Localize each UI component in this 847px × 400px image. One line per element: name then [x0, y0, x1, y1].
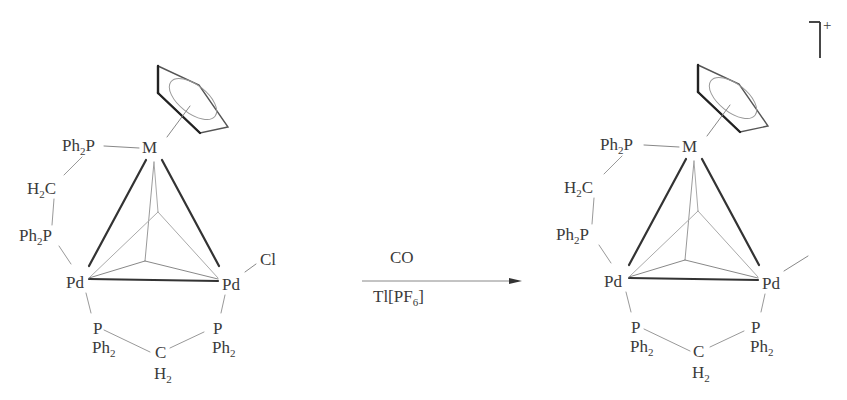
- ph2-bottom-right-label: Ph2: [750, 338, 773, 355]
- h2c-label: H2C: [27, 180, 56, 197]
- charge-bracket: [809, 22, 820, 58]
- charge-label: +: [823, 18, 831, 33]
- p-bottom-right-label: P: [751, 319, 760, 336]
- metal-label: M: [682, 138, 697, 155]
- p-bottom-left-label: P: [93, 320, 102, 337]
- ph2-bottom-left-label: Ph2: [92, 339, 115, 356]
- arrowhead-icon: [509, 278, 522, 284]
- ph2p-top-label: Ph2P: [600, 136, 633, 153]
- pd-right-label: Pd: [222, 276, 240, 293]
- reagent-tlpf6-label: Tl[PF6]: [373, 288, 424, 305]
- pd-left-label: Pd: [66, 274, 84, 291]
- benzene-ring-icon: [698, 65, 768, 132]
- reaction-arrow: [362, 278, 522, 284]
- benzene-ring-icon: [158, 66, 228, 133]
- c-bottom-label: C: [693, 343, 704, 360]
- chloride-label: Cl: [260, 251, 276, 268]
- h2-bottom-label: H2: [154, 365, 172, 382]
- ph2-bottom-left-label: Ph2: [630, 338, 653, 355]
- reagent-co-label: CO: [390, 249, 414, 266]
- ph2-bottom-right-label: Ph2: [212, 339, 235, 356]
- pd-right-label: Pd: [762, 275, 780, 292]
- ph2p-top-label: Ph2P: [62, 137, 95, 154]
- p-bottom-left-label: P: [631, 319, 640, 336]
- reactant-bonds: [52, 66, 256, 352]
- p-bottom-right-label: P: [213, 320, 222, 337]
- h2c-label: H2C: [564, 179, 593, 196]
- pd-left-label: Pd: [604, 273, 622, 290]
- reaction-scheme: [0, 0, 847, 400]
- ph2p-mid-label: Ph2P: [19, 227, 52, 244]
- metal-label: M: [142, 139, 157, 156]
- ph2p-mid-label: Ph2P: [556, 226, 589, 243]
- product-bonds: [592, 65, 808, 351]
- h2-bottom-label: H2: [692, 364, 710, 381]
- c-bottom-label: C: [155, 344, 166, 361]
